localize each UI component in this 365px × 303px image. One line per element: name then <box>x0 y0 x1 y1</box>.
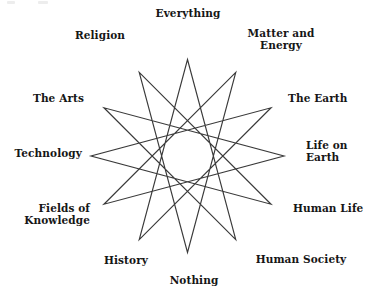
star-chain-0 <box>91 60 284 253</box>
vertex-label-nothing[interactable]: Nothing <box>163 275 225 287</box>
vertex-label-fields-of-knowledge[interactable]: Fields of Knowledge <box>8 203 90 227</box>
vertex-label-history[interactable]: History <box>95 255 157 267</box>
star-diagram: Everything Matter and Energy The Earth L… <box>0 0 365 303</box>
vertex-label-matter-and-energy[interactable]: Matter and Energy <box>240 28 322 52</box>
vertex-label-life-on-earth[interactable]: Life on Earth <box>306 140 364 164</box>
vertex-label-everything[interactable]: Everything <box>146 8 230 20</box>
vertex-label-human-life[interactable]: Human Life <box>293 203 365 215</box>
vertex-label-the-arts[interactable]: The Arts <box>14 93 84 105</box>
star-polygon-lines <box>91 60 284 253</box>
vertex-label-the-earth[interactable]: The Earth <box>288 93 364 105</box>
vertex-label-religion[interactable]: Religion <box>64 30 136 42</box>
vertex-label-technology[interactable]: Technology <box>6 148 82 160</box>
vertex-label-human-society[interactable]: Human Society <box>253 254 349 266</box>
